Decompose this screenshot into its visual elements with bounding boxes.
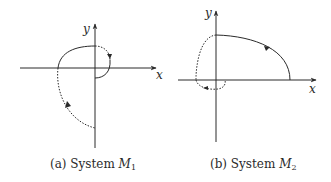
trajectory-solid-upper (58, 46, 95, 68)
phase-portrait-figure: y x y x (0, 0, 331, 182)
caption-a-prefix: (a) System (50, 157, 119, 171)
x-axis-label: x (156, 68, 163, 82)
arrow-icon (65, 101, 71, 108)
trajectory-small-loop (196, 80, 225, 89)
caption-b-symbol: M (279, 157, 291, 171)
trajectory-dotted-lower-left (58, 68, 95, 128)
arrow-icon (264, 46, 270, 51)
trajectory-solid-large (216, 35, 290, 80)
caption-b-subscript: 2 (291, 163, 296, 172)
panel-b: y x (178, 6, 316, 142)
caption-a: (a) System M1 (50, 157, 136, 172)
panel-a: y x (20, 22, 163, 148)
caption-b: (b) System M2 (210, 157, 297, 172)
arrow-icon (203, 86, 208, 90)
x-axis-label: x (309, 82, 316, 96)
y-axis-label: y (204, 6, 212, 20)
caption-b-prefix: (b) System (210, 157, 279, 171)
trajectory-dotted-upper-right (95, 46, 110, 60)
caption-a-symbol: M (119, 157, 131, 171)
trajectory-solid-inner (95, 60, 110, 78)
caption-a-subscript: 1 (131, 163, 136, 172)
y-axis-label: y (82, 22, 90, 36)
trajectory-dotted-left (196, 35, 216, 80)
